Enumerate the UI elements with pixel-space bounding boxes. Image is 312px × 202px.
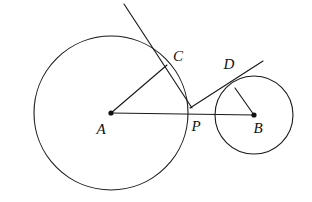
point-label-c: C	[173, 48, 184, 64]
point-label-d: D	[223, 56, 235, 72]
point-label-p: P	[190, 118, 200, 134]
point-label-a: A	[95, 121, 106, 137]
segment-a-to-b	[111, 113, 254, 115]
point-dot-b	[251, 112, 256, 117]
geometry-canvas: A B C D P	[0, 0, 312, 202]
geometry-figure: A B C D P	[0, 0, 312, 202]
point-dot-a	[108, 110, 113, 115]
point-label-b: B	[253, 120, 262, 136]
segment-a-to-c	[111, 65, 167, 113]
segment-b-to-d	[235, 88, 254, 115]
